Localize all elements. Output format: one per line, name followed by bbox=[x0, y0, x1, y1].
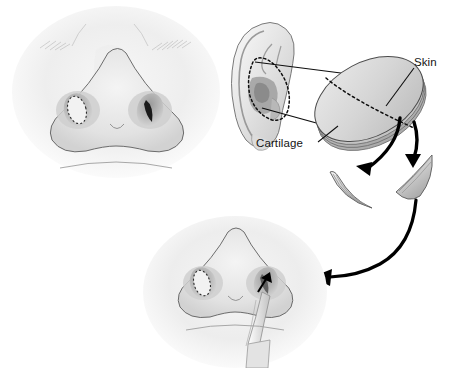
illustration-figure: Skin Cartilage bbox=[0, 0, 467, 368]
forceps-handle bbox=[246, 340, 270, 368]
composite-graft-scene: Skin Cartilage bbox=[0, 0, 467, 368]
nose-preoperative-panel bbox=[12, 6, 220, 178]
skin-label: Skin bbox=[414, 56, 437, 68]
cartilage-label: Cartilage bbox=[256, 137, 303, 149]
nose-graft-insertion-panel bbox=[143, 216, 327, 368]
